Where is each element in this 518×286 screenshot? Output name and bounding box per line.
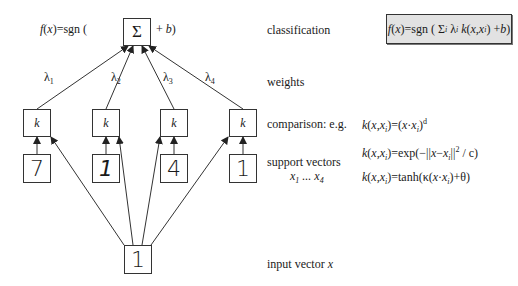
- top-formula-prefix: f(x)=sgn (: [40, 22, 87, 37]
- top-formula-suffix: + b): [156, 22, 176, 37]
- kernel-sigmoid: k(x,xi)=tanh(κ(x·xi)+θ): [362, 170, 470, 186]
- label-comparison: comparison: e.g.: [267, 117, 347, 132]
- support-vector-4: 1: [229, 154, 257, 183]
- label-input-vector: input vector x: [267, 257, 333, 272]
- support-vector-3: 4: [160, 154, 188, 183]
- weight-label-4: λ4: [205, 70, 215, 86]
- label-support-vectors-range: x1 ... x4: [290, 169, 324, 185]
- weight-label-1: λ1: [44, 70, 54, 86]
- support-vector-1: 7: [23, 154, 51, 183]
- weight-label-3: λ3: [163, 70, 173, 86]
- kernel-node-2: k: [92, 109, 120, 137]
- label-weights: weights: [267, 75, 304, 90]
- label-support-vectors: support vectors: [267, 155, 341, 170]
- kernel-rbf: k(x,xi)=exp(−||x−xi||2 / c): [362, 145, 478, 162]
- classification-formula-box: f(x)=sgn ( Σi λi k(x,xi) + b): [386, 14, 512, 44]
- input-vector-node: 1: [124, 245, 152, 274]
- kernel-node-4: k: [229, 109, 257, 137]
- kernel-polynomial: k(x,xi)=(x·xi)d: [362, 117, 427, 134]
- weight-label-2: λ2: [111, 70, 121, 86]
- label-classification: classification: [267, 23, 330, 38]
- sum-node: Σ: [123, 18, 151, 46]
- kernel-node-1: k: [23, 109, 51, 137]
- support-vector-2: 1: [92, 154, 120, 183]
- sigma-symbol: Σ: [132, 22, 142, 42]
- kernel-node-3: k: [160, 109, 188, 137]
